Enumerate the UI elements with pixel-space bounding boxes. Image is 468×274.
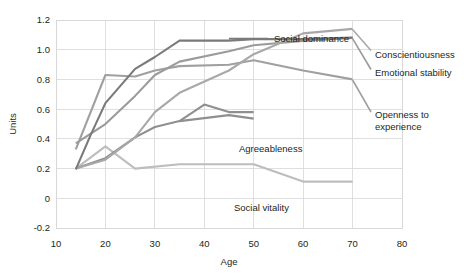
leader-line-emotional-stability	[353, 39, 371, 70]
series-line-agreeableness-upper	[180, 105, 254, 122]
y-tick-label: -0.2	[34, 222, 50, 233]
series-label-emotional-stability: Emotional stability	[375, 67, 452, 78]
series-label-agreeableness: Agreeableness	[239, 143, 303, 154]
x-tick-label: 20	[100, 238, 111, 249]
line-chart: 1.2 1.0 0.8 0.6 0.4 0.2 0 -0.2 10 20 30 …	[0, 0, 468, 274]
x-tick-label: 10	[51, 238, 62, 249]
x-axis-ticks: 10 20 30 40 50 60 70 80	[51, 238, 408, 249]
y-tick-label: 0.8	[37, 74, 50, 85]
y-tick-label: 0.2	[37, 163, 50, 174]
y-tick-label: 0	[45, 193, 50, 204]
series-label-social-dominance: Social dominance	[274, 33, 349, 44]
x-tick-label: 60	[298, 238, 309, 249]
leader-line-conscientiousness	[353, 30, 371, 51]
x-axis-title: Age	[221, 256, 238, 267]
y-axis-ticks: 1.2 1.0 0.8 0.6 0.4 0.2 0 -0.2	[34, 14, 50, 233]
chart-container: 1.2 1.0 0.8 0.6 0.4 0.2 0 -0.2 10 20 30 …	[0, 0, 468, 274]
series-label-openness-line2: experience	[375, 121, 421, 132]
x-tick-label: 70	[347, 238, 358, 249]
x-tick-label: 80	[397, 238, 408, 249]
y-tick-label: 0.6	[37, 104, 50, 115]
x-tick-label: 30	[150, 238, 161, 249]
y-tick-label: 1.2	[37, 14, 50, 25]
x-tick-label: 40	[199, 238, 210, 249]
y-tick-label: 1.0	[37, 44, 50, 55]
y-axis-title: Units	[7, 113, 18, 135]
series-label-conscientiousness: Conscientiousness	[375, 49, 455, 60]
series-label-openness-line1: Openness to	[375, 109, 429, 120]
series-label-social-vitality: Social vitality	[234, 202, 289, 213]
y-tick-label: 0.4	[37, 133, 50, 144]
x-tick-label: 50	[248, 238, 259, 249]
series-line-openness	[76, 60, 353, 149]
leader-line-openness	[353, 80, 371, 112]
